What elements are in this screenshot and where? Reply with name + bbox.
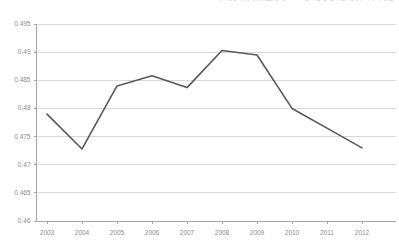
- y-tick-label: 0.465: [0, 189, 31, 197]
- y-tick-label: 0.475: [0, 133, 31, 141]
- x-tick-label: 2005: [97, 229, 137, 237]
- x-tick-label: 2007: [167, 229, 207, 237]
- data-series: [47, 50, 362, 149]
- plot-area: [0, 0, 399, 251]
- gridlines: [37, 24, 397, 221]
- x-tick-label: 2008: [202, 229, 242, 237]
- y-tick-label: 0.49: [0, 48, 31, 56]
- x-tick-label: 2012: [342, 229, 382, 237]
- x-tick-label: 2004: [62, 229, 102, 237]
- x-tick-label: 2011: [307, 229, 347, 237]
- x-tick-label: 2009: [237, 229, 277, 237]
- x-tick-label: 2003: [27, 229, 67, 237]
- line-chart: 年份城镇居民人均可支配收入占比 0.4950.490.4850.480.4750…: [0, 0, 399, 251]
- y-tick-label: 0.47: [0, 161, 31, 169]
- x-tick-label: 2006: [132, 229, 172, 237]
- y-tick-label: 0.48: [0, 104, 31, 112]
- y-tick-label: 0.46: [0, 217, 31, 225]
- y-tick-label: 0.485: [0, 76, 31, 84]
- y-tick-label: 0.495: [0, 20, 31, 28]
- x-tick-label: 2010: [272, 229, 312, 237]
- axis-ticks: [34, 24, 363, 224]
- series-line: [47, 50, 362, 149]
